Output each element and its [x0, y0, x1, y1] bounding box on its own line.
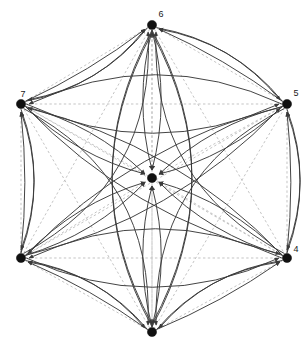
node-label: 4 [293, 244, 298, 254]
graph-node[interactable] [147, 173, 156, 182]
directed-edge [112, 30, 152, 324]
directed-edge [152, 186, 161, 327]
graph-node[interactable] [282, 99, 291, 108]
graph-node[interactable] [147, 327, 156, 336]
directed-arc-layer [21, 28, 300, 330]
directed-edge [143, 30, 152, 170]
graph-node[interactable] [16, 253, 25, 262]
dashed-chord [152, 258, 287, 332]
node-label: 6 [158, 9, 163, 19]
directed-edge [21, 112, 25, 253]
graph-node[interactable] [16, 99, 25, 108]
dashed-chord [21, 258, 152, 332]
node-label: 5 [293, 88, 298, 98]
node-label: 7 [20, 89, 25, 99]
dashed-chord [152, 178, 287, 258]
directed-edge [26, 258, 279, 287]
dashed-chord [152, 25, 287, 104]
directed-graph: 6547 [0, 0, 304, 351]
diagram-canvas: 6547 [0, 0, 304, 351]
directed-edge [152, 30, 161, 170]
graph-node[interactable] [282, 253, 291, 262]
directed-edge [287, 112, 291, 253]
node-layer [16, 20, 291, 336]
graph-node[interactable] [147, 20, 156, 29]
dashed-chord [21, 25, 152, 104]
